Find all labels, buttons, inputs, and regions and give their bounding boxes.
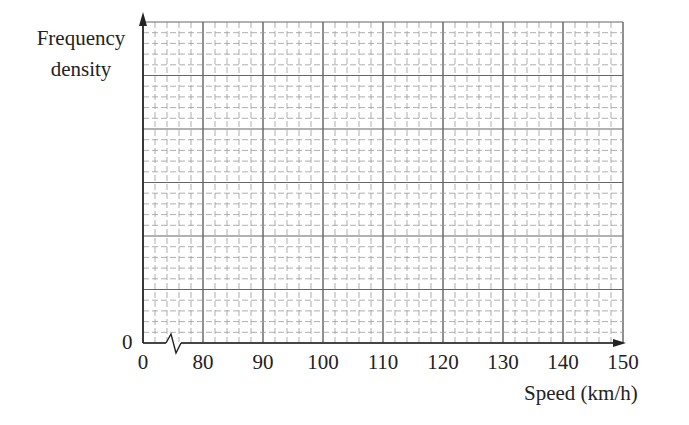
x-tick-label: 120 — [427, 350, 459, 375]
x-tick-label: 140 — [547, 350, 579, 375]
x-tick-label: 100 — [307, 350, 339, 375]
x-tick-label: 80 — [193, 350, 214, 375]
x-tick-label: 130 — [487, 350, 519, 375]
x-axis-arrow-icon — [613, 339, 626, 347]
x-tick-label: 110 — [368, 350, 399, 375]
x-tick-label: 150 — [607, 350, 639, 375]
y-axis-arrow-icon — [139, 12, 147, 26]
x-tick-label: 90 — [253, 350, 274, 375]
histogram-grid — [0, 0, 689, 425]
x-axis-label: Speed (km/h) — [524, 381, 638, 406]
x-tick-label: 0 — [138, 350, 149, 375]
